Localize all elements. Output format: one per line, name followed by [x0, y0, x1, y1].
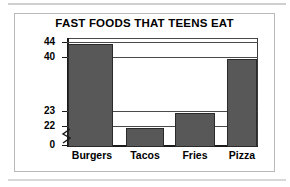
page-rule-top: [8, 3, 286, 5]
x-tick-label-burgers: Burgers: [64, 149, 120, 161]
page-rule-bottom: [8, 179, 286, 181]
y-tick-label-0: 0: [49, 140, 55, 150]
bar-pizza[interactable]: [227, 59, 257, 147]
bar-tacos[interactable]: [126, 128, 164, 147]
y-tick-label-23: 23: [44, 106, 55, 116]
x-tick-label-fries: Fries: [169, 149, 221, 161]
y-tick-label-22: 22: [44, 121, 55, 131]
bar-series: [67, 38, 258, 147]
chart-figure: FAST FOODS THAT TEENS EAT Yearly Number …: [0, 0, 290, 187]
y-tick-label-40: 40: [44, 52, 55, 62]
bar-burgers[interactable]: [68, 44, 113, 147]
bar-fries[interactable]: [175, 113, 215, 147]
x-tick-label-pizza: Pizza: [217, 149, 267, 161]
y-tick-label-44: 44: [44, 37, 55, 47]
axis-break-icon: [61, 128, 71, 144]
plot-area: 44 40 23 22 0 Burgers Tacos Fries Pizza: [67, 38, 258, 147]
chart-title: FAST FOODS THAT TEENS EAT: [14, 17, 275, 29]
x-tick-label-tacos: Tacos: [119, 149, 171, 161]
